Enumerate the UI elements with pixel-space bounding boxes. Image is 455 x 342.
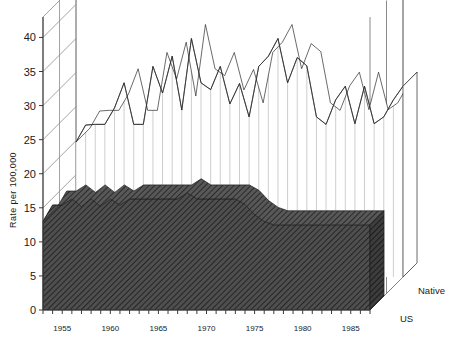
svg-text:Rate per 100,000: Rate per 100,000 — [8, 152, 18, 228]
svg-text:10: 10 — [24, 236, 36, 248]
series-layer — [43, 24, 417, 310]
svg-text:20: 20 — [24, 168, 36, 180]
svg-text:1975: 1975 — [246, 324, 264, 333]
svg-text:1980: 1980 — [294, 324, 312, 333]
svg-text:25: 25 — [24, 134, 36, 146]
svg-text:1960: 1960 — [101, 324, 119, 333]
svg-text:1970: 1970 — [198, 324, 216, 333]
area-chart-3d: 4035302520151050195519601965197019751980… — [0, 0, 455, 342]
svg-text:30: 30 — [24, 100, 36, 112]
svg-text:Native: Native — [418, 285, 445, 296]
svg-text:5: 5 — [30, 270, 36, 282]
svg-text:1955: 1955 — [53, 324, 71, 333]
svg-text:1985: 1985 — [342, 324, 360, 333]
svg-text:1965: 1965 — [150, 324, 168, 333]
svg-text:0: 0 — [30, 304, 36, 316]
svg-text:15: 15 — [24, 202, 36, 214]
svg-text:40: 40 — [24, 31, 36, 43]
svg-text:35: 35 — [24, 66, 36, 78]
chart-container: 4035302520151050195519601965197019751980… — [0, 0, 455, 342]
svg-text:US: US — [400, 313, 413, 324]
